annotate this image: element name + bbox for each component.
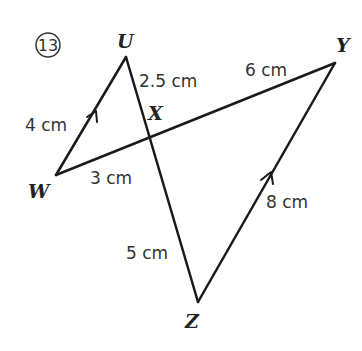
point-label-w: W [28,180,51,202]
measure-yz: 8 cm [266,192,308,212]
segment-uz [126,57,198,302]
problem-number-text: 13 [38,36,58,55]
point-label-u: U [117,30,135,52]
measure-xz: 5 cm [126,243,168,263]
point-label-x: X [147,102,164,124]
measure-xy: 6 cm [245,60,287,80]
measure-wx: 3 cm [90,168,132,188]
point-label-z: Z [184,310,200,332]
measure-ux: 2.5 cm [139,71,197,91]
point-label-y: Y [336,34,352,56]
segment-yz [198,63,335,302]
geometry-diagram: 13 U W X Y Z 4 cm 2.5 cm 6 cm 3 cm 5 cm … [0,0,362,351]
problem-number: 13 [36,33,60,57]
measure-uw: 4 cm [25,115,67,135]
